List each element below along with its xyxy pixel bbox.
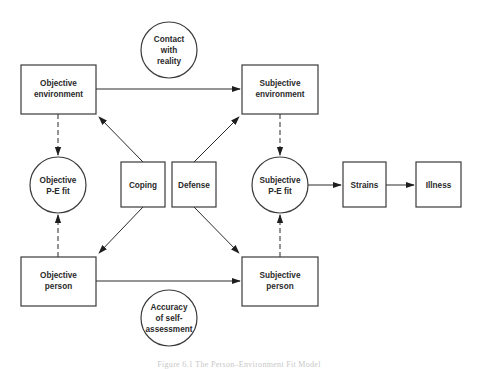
- node-label: with: [160, 46, 177, 55]
- node-label: Defense: [178, 181, 210, 190]
- node-label: Objective: [40, 79, 77, 88]
- node-objective-person: Objective person: [21, 257, 96, 306]
- edge-defense-to-subjperson: [194, 207, 239, 253]
- node-label: Subjective: [260, 271, 301, 280]
- node-label: assessment: [146, 325, 193, 334]
- node-label: P-E fit: [46, 187, 70, 196]
- node-subjective-pe-fit: Subjective P-E fit: [252, 157, 308, 213]
- node-label: environment: [34, 90, 83, 99]
- node-illness: Illness: [416, 162, 461, 207]
- figure-caption: Figure 6.1 The Person–Environment Fit Mo…: [0, 360, 478, 369]
- node-defense: Defense: [172, 162, 216, 207]
- edge-defense-to-subjenv: [194, 117, 239, 162]
- node-subjective-environment: Subjective environment: [242, 65, 318, 114]
- node-label: person: [45, 282, 72, 291]
- node-label: Objective: [40, 176, 77, 185]
- node-label: Objective: [40, 271, 77, 280]
- pe-fit-diagram: Objective environment Subjective environ…: [0, 0, 478, 369]
- node-label: Coping: [129, 181, 157, 190]
- node-label: reality: [157, 57, 182, 66]
- node-label: Strains: [351, 181, 379, 190]
- node-label: person: [266, 282, 293, 291]
- edge-coping-to-objperson: [99, 207, 143, 253]
- node-label: Accuracy: [151, 303, 188, 312]
- node-objective-pe-fit: Objective P-E fit: [30, 157, 86, 213]
- node-label: Subjective: [260, 79, 301, 88]
- node-contact-with-reality: Contact with reality: [141, 22, 197, 78]
- node-strains: Strains: [343, 162, 386, 207]
- node-objective-environment: Objective environment: [21, 65, 96, 114]
- node-label: Contact: [154, 35, 185, 44]
- node-coping: Coping: [121, 162, 165, 207]
- edge-coping-to-objenv: [99, 117, 143, 162]
- node-label: environment: [255, 90, 304, 99]
- node-label: Subjective: [260, 176, 301, 185]
- node-accuracy-of-self-assessment: Accuracy of self- assessment: [141, 290, 197, 346]
- node-label: Illness: [426, 181, 452, 190]
- node-subjective-person: Subjective person: [242, 257, 318, 306]
- node-label: of self-: [156, 314, 183, 323]
- node-label: P-E fit: [268, 187, 292, 196]
